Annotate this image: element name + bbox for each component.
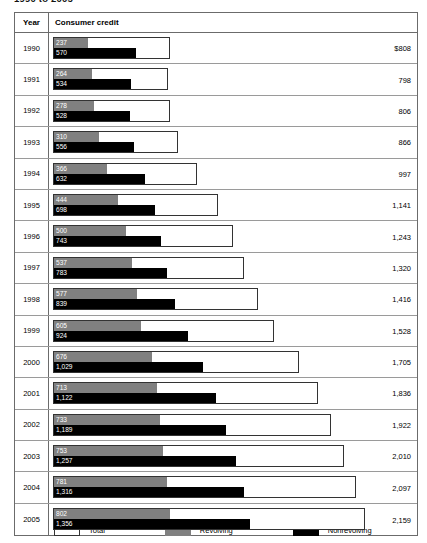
table-row: 19954446981,141 xyxy=(15,190,417,221)
bar-group: 237570 xyxy=(53,33,417,63)
bar-label-nonrevolving: 1,189 xyxy=(56,425,73,435)
bar-group: 444698 xyxy=(53,190,417,220)
bar-revolving xyxy=(54,446,163,456)
row-plot-cell: 5377831,320 xyxy=(49,253,417,283)
table-row: 19996059241,528 xyxy=(15,316,417,347)
row-plot-cell: 7531,2572,010 xyxy=(49,441,417,471)
bar-label-nonrevolving: 1,029 xyxy=(56,362,73,372)
bar-nonrevolving xyxy=(54,174,145,184)
row-plot-cell: 7131,1221,836 xyxy=(49,378,417,408)
table-row: 20017131,1221,836 xyxy=(15,378,417,409)
bar-label-revolving: 802 xyxy=(56,509,67,519)
bar-label-nonrevolving: 1,122 xyxy=(56,393,73,403)
table-row: 20006761,0291,705 xyxy=(15,347,417,378)
row-year: 2004 xyxy=(15,472,49,502)
bar-group: 6761,029 xyxy=(53,347,417,377)
bar-label-revolving: 500 xyxy=(56,226,67,236)
bar-group: 537783 xyxy=(53,253,417,283)
bar-label-nonrevolving: 1,356 xyxy=(56,519,73,529)
table-row: 1992278528806 xyxy=(15,96,417,127)
bar-revolving xyxy=(54,415,160,425)
bar-label-nonrevolving: 1,257 xyxy=(56,456,73,466)
table-row: 20027331,1891,922 xyxy=(15,410,417,441)
row-total-value: 1,416 xyxy=(392,295,411,304)
bar-nonrevolving xyxy=(54,205,155,215)
table-row: 19985778391,416 xyxy=(15,284,417,315)
bar-nonrevolving xyxy=(54,393,216,403)
bar-nonrevolving xyxy=(54,331,188,341)
bar-group: 605924 xyxy=(53,316,417,346)
chart-title: 1990 to 2005 xyxy=(14,0,73,2)
row-plot-cell: 7811,3162,097 xyxy=(49,472,417,502)
bar-group: 7531,257 xyxy=(53,441,417,471)
row-year: 1999 xyxy=(15,316,49,346)
row-total-value: 866 xyxy=(398,138,411,147)
row-plot-cell: 5778391,416 xyxy=(49,284,417,314)
bar-group: 310556 xyxy=(53,127,417,157)
table-row: 19975377831,320 xyxy=(15,253,417,284)
row-plot-cell: 278528806 xyxy=(49,96,417,126)
row-total-value: 1,705 xyxy=(392,358,411,367)
table-row: 1991264534798 xyxy=(15,64,417,95)
row-plot-cell: 6059241,528 xyxy=(49,316,417,346)
row-year: 1990 xyxy=(15,33,49,63)
table-row: 19965007431,243 xyxy=(15,221,417,252)
row-plot-cell: 237570$808 xyxy=(49,33,417,63)
row-year: 2002 xyxy=(15,410,49,440)
bar-nonrevolving xyxy=(54,236,161,246)
row-year: 1993 xyxy=(15,127,49,157)
bar-group: 7811,316 xyxy=(53,472,417,502)
bar-label-nonrevolving: 783 xyxy=(56,268,67,278)
row-year: 1994 xyxy=(15,159,49,189)
bar-group: 366632 xyxy=(53,159,417,189)
row-total-value: 1,320 xyxy=(392,263,411,272)
row-plot-cell: 366632997 xyxy=(49,159,417,189)
bar-label-revolving: 577 xyxy=(56,289,67,299)
bar-label-nonrevolving: 1,316 xyxy=(56,487,73,497)
row-year: 2003 xyxy=(15,441,49,471)
bar-label-revolving: 753 xyxy=(56,446,67,456)
row-year: 2001 xyxy=(15,378,49,408)
bar-nonrevolving xyxy=(54,299,175,309)
bar-label-nonrevolving: 528 xyxy=(56,111,67,121)
bar-label-revolving: 605 xyxy=(56,321,67,331)
table-row: 20047811,3162,097 xyxy=(15,472,417,503)
bar-label-nonrevolving: 556 xyxy=(56,142,67,152)
row-plot-cell: 6761,0291,705 xyxy=(49,347,417,377)
bar-group: 7131,122 xyxy=(53,378,417,408)
row-year: 1995 xyxy=(15,190,49,220)
bar-revolving xyxy=(54,321,141,331)
table-row: 1993310556866 xyxy=(15,127,417,158)
bar-label-nonrevolving: 743 xyxy=(56,236,67,246)
row-total-value: 1,836 xyxy=(392,389,411,398)
table-header-row: Year Consumer credit xyxy=(15,13,417,33)
bar-group: 500743 xyxy=(53,221,417,251)
row-plot-cell: 4446981,141 xyxy=(49,190,417,220)
bar-label-revolving: 310 xyxy=(56,132,67,142)
row-total-value: 1,141 xyxy=(392,201,411,210)
bar-label-nonrevolving: 698 xyxy=(56,205,67,215)
bar-group: 7331,189 xyxy=(53,410,417,440)
row-total-value: 997 xyxy=(398,169,411,178)
bar-nonrevolving xyxy=(54,425,226,435)
row-total-value: 806 xyxy=(398,106,411,115)
table-row: 1994366632997 xyxy=(15,159,417,190)
row-total-value: 1,243 xyxy=(392,232,411,241)
row-year: 1998 xyxy=(15,284,49,314)
bar-label-nonrevolving: 534 xyxy=(56,79,67,89)
row-plot-cell: 310556866 xyxy=(49,127,417,157)
bar-label-revolving: 676 xyxy=(56,352,67,362)
bar-nonrevolving xyxy=(54,456,236,466)
row-year: 2000 xyxy=(15,347,49,377)
bar-label-nonrevolving: 839 xyxy=(56,299,67,309)
bar-label-revolving: 781 xyxy=(56,477,67,487)
bar-group: 577839 xyxy=(53,284,417,314)
table-row: 20037531,2572,010 xyxy=(15,441,417,472)
bar-label-revolving: 444 xyxy=(56,195,67,205)
bar-label-revolving: 237 xyxy=(56,38,67,48)
row-total-value: 1,922 xyxy=(392,420,411,429)
bar-revolving xyxy=(54,383,157,393)
row-year: 1992 xyxy=(15,96,49,126)
row-year: 1991 xyxy=(15,64,49,94)
bar-label-revolving: 733 xyxy=(56,415,67,425)
